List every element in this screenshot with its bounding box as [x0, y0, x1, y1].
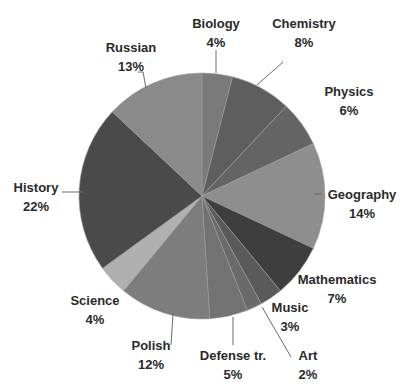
slice-label-name: Polish — [131, 336, 170, 355]
slice-label-name: Science — [70, 291, 119, 310]
slice-label: Music3% — [272, 298, 309, 336]
slice-label-name: Mathematics — [298, 270, 377, 289]
slice-label-percent: 13% — [106, 57, 157, 76]
slice-label: Russian13% — [106, 38, 157, 76]
slice-label-percent: 4% — [192, 33, 240, 52]
slice-label-percent: 5% — [200, 365, 266, 384]
slice-label-percent: 4% — [70, 310, 119, 329]
slice-label: Science4% — [70, 291, 119, 329]
slice-label: Physics6% — [324, 82, 373, 120]
slice-label: Biology4% — [192, 14, 240, 52]
slice-label: Polish12% — [131, 336, 170, 374]
pie-slices — [79, 73, 325, 319]
slice-label-percent: 22% — [14, 197, 59, 216]
leader-line — [171, 314, 173, 345]
slice-label-name: Chemistry — [272, 14, 336, 33]
slice-label-percent: 7% — [298, 289, 377, 308]
slice-label-name: Russian — [106, 38, 157, 57]
slice-label-name: Biology — [192, 14, 240, 33]
slice-label: Defense tr.5% — [200, 346, 266, 384]
slice-label-percent: 6% — [324, 101, 373, 120]
slice-label-name: Geography — [328, 185, 397, 204]
leader-line — [257, 62, 283, 85]
slice-label-name: Music — [272, 298, 309, 317]
slice-label: Geography14% — [328, 185, 397, 223]
slice-label: Art2% — [299, 346, 318, 384]
slice-label-percent: 2% — [299, 365, 318, 384]
slice-label-percent: 12% — [131, 355, 170, 374]
slice-label-name: Defense tr. — [200, 346, 266, 365]
slice-label-name: History — [14, 178, 59, 197]
slice-label: Chemistry8% — [272, 14, 336, 52]
slice-label-percent: 8% — [272, 33, 336, 52]
slice-label: History22% — [14, 178, 59, 216]
slice-label: Mathematics7% — [298, 270, 377, 308]
slice-label-name: Art — [299, 346, 318, 365]
slice-label-name: Physics — [324, 82, 373, 101]
slice-label-percent: 3% — [272, 317, 309, 336]
slice-label-percent: 14% — [328, 204, 397, 223]
